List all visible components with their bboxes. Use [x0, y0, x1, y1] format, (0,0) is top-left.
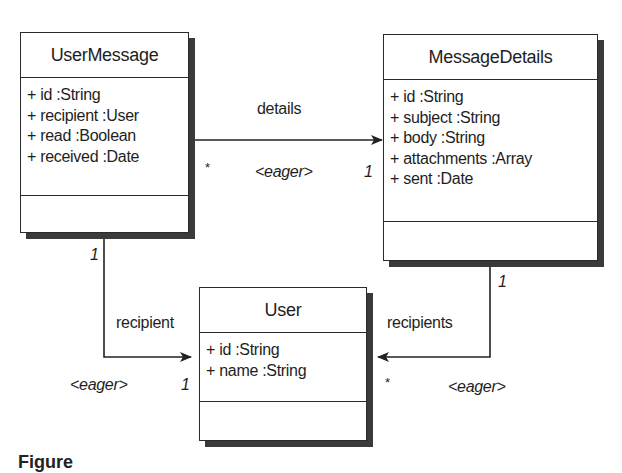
figure-caption: Figure	[18, 452, 73, 473]
attribute: + id :String	[206, 340, 366, 361]
class-user: User + id :String + name :String	[199, 287, 367, 441]
stereotype-label: <eager>	[70, 376, 128, 394]
attribute: + read :Boolean	[27, 126, 188, 147]
attributes-compartment: + id :String + recipient :User + read :B…	[21, 78, 188, 196]
multiplicity-source: 1	[90, 246, 99, 264]
class-name: MessageDetails	[384, 35, 597, 80]
multiplicity-target: 1	[364, 163, 373, 181]
role-label-details: details	[257, 100, 301, 118]
attribute: + sent :Date	[390, 169, 597, 190]
recipient-association-line	[104, 238, 191, 357]
recipients-association-line	[378, 266, 490, 357]
class-name: User	[200, 288, 366, 333]
attribute: + subject :String	[390, 108, 597, 129]
attribute: + attachments :Array	[390, 149, 597, 170]
stereotype-label: <eager>	[255, 163, 313, 181]
class-usermessage: UserMessage + id :String + recipient :Us…	[20, 32, 189, 233]
multiplicity-target: *	[385, 375, 390, 390]
multiplicity-source: *	[205, 160, 210, 175]
stereotype-label: <eager>	[448, 378, 506, 396]
attribute: + received :Date	[27, 147, 188, 168]
attribute: + id :String	[390, 87, 597, 108]
multiplicity-target: 1	[181, 376, 190, 394]
class-messagedetails: MessageDetails + id :String + subject :S…	[383, 34, 598, 261]
attributes-compartment: + id :String + subject :String + body :S…	[384, 80, 597, 222]
attribute: + recipient :User	[27, 106, 188, 127]
role-label-recipient: recipient	[116, 314, 174, 332]
multiplicity-source: 1	[498, 273, 507, 291]
attribute: + name :String	[206, 361, 366, 382]
class-name: UserMessage	[21, 33, 188, 78]
attribute: + body :String	[390, 128, 597, 149]
role-label-recipients: recipients	[387, 314, 452, 332]
attribute: + id :String	[27, 85, 188, 106]
attributes-compartment: + id :String + name :String	[200, 333, 366, 402]
